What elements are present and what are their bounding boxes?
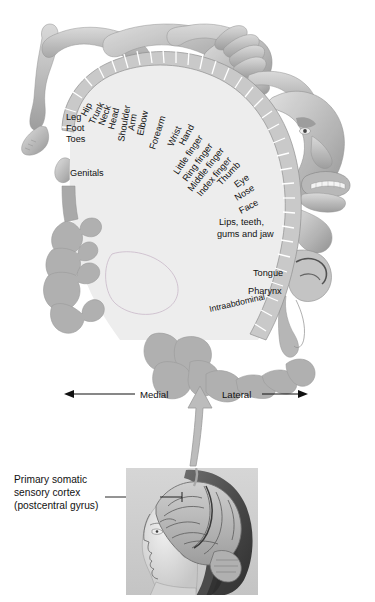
cortex-label-lips-line2: gums and jaw	[217, 229, 274, 239]
caption-line-3: (postcentral gyrus)	[14, 500, 98, 511]
axis-label-lateral: Lateral	[222, 389, 251, 400]
figure-canvas: Hip Leg Foot Toes Genitals Trunk Neck He…	[0, 0, 375, 602]
cortex-label-leg: Leg	[66, 112, 81, 122]
caption-line-2: sensory cortex	[14, 487, 80, 498]
caption-line-1: Primary somatic	[14, 474, 87, 485]
inset-photo	[126, 468, 258, 596]
cortex-label-tongue: Tongue	[253, 268, 283, 278]
axis-label-medial: Medial	[140, 389, 168, 400]
cortex-label-lips-line1: Lips, teeth,	[219, 217, 264, 227]
cortex-label-foot: Foot	[66, 123, 85, 133]
cortex-gyral-fold	[44, 218, 105, 333]
cortex-label-toes: Toes	[66, 134, 86, 144]
cortex-label-genitals: Genitals	[70, 168, 104, 178]
